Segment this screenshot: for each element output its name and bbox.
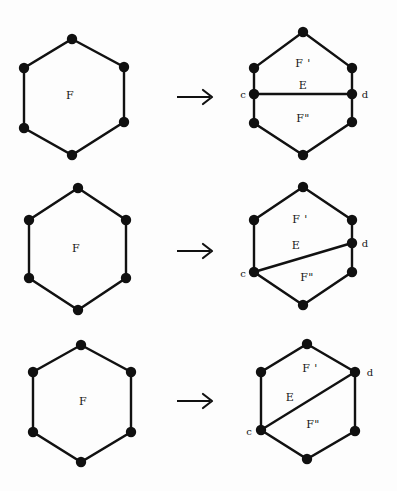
vertex-upper-left <box>28 367 38 377</box>
row-2-right-hexagon: F ' E F" c d <box>240 182 369 310</box>
vertex-lower-right <box>350 426 360 436</box>
vertex-c <box>256 425 266 435</box>
vertex-top <box>302 339 312 349</box>
vertex-top <box>298 27 308 37</box>
vertex-bottom <box>302 454 312 464</box>
vertex-bottom <box>67 150 77 160</box>
vertex-d <box>350 367 360 377</box>
vertex-upper-left <box>19 63 29 73</box>
vertex-lower-right <box>347 117 357 127</box>
vertex-top <box>73 183 83 193</box>
vertex-upper-right <box>121 215 131 225</box>
row-2: F F ' E F" c d <box>0 164 397 328</box>
figure-canvas: F F ' E F" c d <box>0 0 397 491</box>
face-label-F: F <box>79 395 87 408</box>
vertex-bottom <box>73 305 83 315</box>
vertex-top <box>67 34 77 44</box>
vertex-top <box>298 182 308 192</box>
vertex-lower-right <box>347 267 357 277</box>
vertex-lower-left <box>249 118 259 128</box>
face-label-F-double-prime: F" <box>300 271 314 284</box>
row-3-arrow-icon <box>177 394 212 408</box>
row-3: F F ' E F" c d <box>0 328 397 491</box>
face-label-F-prime: F ' <box>302 362 318 375</box>
face-label-F: F <box>66 89 74 102</box>
row-3-left-hexagon: F <box>28 340 136 467</box>
row-1-right-hexagon: F ' E F" c d <box>240 27 369 160</box>
label-c: c <box>240 268 246 279</box>
vertex-lower-right <box>126 427 136 437</box>
vertex-c <box>249 267 259 277</box>
vertex-lower-right <box>121 273 131 283</box>
face-label-F-prime: F ' <box>292 213 308 226</box>
vertex-upper-left <box>249 215 259 225</box>
label-c: c <box>246 426 252 437</box>
vertex-bottom <box>76 457 86 467</box>
row-2-left-hexagon: F <box>24 183 131 315</box>
vertex-upper-right <box>347 63 357 73</box>
vertex-upper-left <box>249 63 259 73</box>
label-c: c <box>240 89 246 100</box>
face-label-F-double-prime: F" <box>306 418 320 431</box>
row-2-arrow-icon <box>177 244 212 258</box>
vertex-c <box>249 89 259 99</box>
face-label-F-prime: F ' <box>295 57 311 70</box>
edge-label-E: E <box>286 391 295 404</box>
vertex-upper-right <box>119 62 129 72</box>
face-label-F-double-prime: F" <box>296 112 310 125</box>
row-1-left-hexagon: F <box>19 34 129 160</box>
face-label-F: F <box>72 242 80 255</box>
vertex-bottom <box>298 300 308 310</box>
row-1: F F ' E F" c d <box>0 0 397 164</box>
vertex-d <box>347 238 357 248</box>
vertex-bottom <box>298 150 308 160</box>
hexagon-outline <box>254 187 352 305</box>
vertex-lower-left <box>28 427 38 437</box>
vertex-d <box>347 89 357 99</box>
edge-label-E: E <box>299 79 308 92</box>
vertex-upper-right <box>347 215 357 225</box>
vertex-upper-right <box>126 367 136 377</box>
vertex-lower-left <box>19 123 29 133</box>
vertex-lower-right <box>119 117 129 127</box>
vertex-lower-left <box>24 273 34 283</box>
label-d: d <box>362 238 369 249</box>
vertex-upper-left <box>256 367 266 377</box>
row-1-arrow-icon <box>177 90 212 104</box>
split-edge-E <box>254 243 352 272</box>
label-d: d <box>362 89 369 100</box>
edge-label-E: E <box>292 239 301 252</box>
vertex-top <box>76 340 86 350</box>
vertex-upper-left <box>24 215 34 225</box>
label-d: d <box>367 367 374 378</box>
row-3-right-hexagon: F ' E F" c d <box>246 339 374 464</box>
